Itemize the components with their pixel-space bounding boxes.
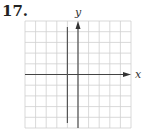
coordinate-grid: x y bbox=[0, 0, 146, 131]
y-axis-arrow-icon bbox=[76, 21, 81, 29]
x-axis-arrow-icon bbox=[123, 72, 131, 77]
x-axis-label: x bbox=[135, 68, 142, 81]
y-axis-label: y bbox=[74, 6, 82, 19]
